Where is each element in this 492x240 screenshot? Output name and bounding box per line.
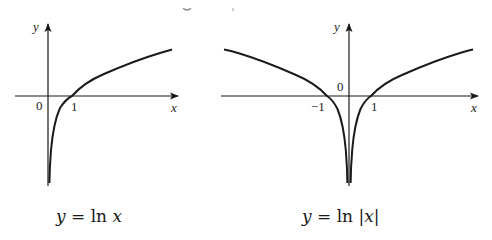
caption-ln-abs-x: y = ln |x|: [302, 208, 380, 225]
ln-abs-x-curve-right: [351, 50, 473, 184]
caption-lhs: y: [302, 206, 312, 226]
x-axis-label: x: [471, 101, 477, 114]
caption-argument: x: [112, 206, 122, 226]
caption-ln-x: y = ln x: [56, 208, 122, 225]
x-axis-label: x: [171, 101, 177, 114]
tick-label-neg-1: −1: [311, 100, 325, 113]
caption-function: ln: [91, 206, 107, 226]
caption-equals: =: [71, 206, 85, 226]
panel-ln-abs-x: [221, 24, 478, 186]
tick-label-1: 1: [371, 100, 378, 113]
origin-tick-label: 0: [337, 80, 344, 93]
origin-tick-label: 0: [36, 99, 43, 112]
tick-label-1: 1: [71, 100, 78, 113]
ln-x-curve: [49, 50, 172, 184]
y-axis-label: y: [33, 20, 39, 33]
caption-argument: |x|: [358, 206, 379, 226]
ln-abs-x-curve-left: [224, 50, 347, 184]
caption-equals: =: [317, 206, 331, 226]
y-axis-label: y: [334, 20, 340, 33]
caption-function: ln: [337, 206, 353, 226]
log-graphs-figure: [0, 0, 492, 240]
caption-lhs: y: [56, 206, 66, 226]
